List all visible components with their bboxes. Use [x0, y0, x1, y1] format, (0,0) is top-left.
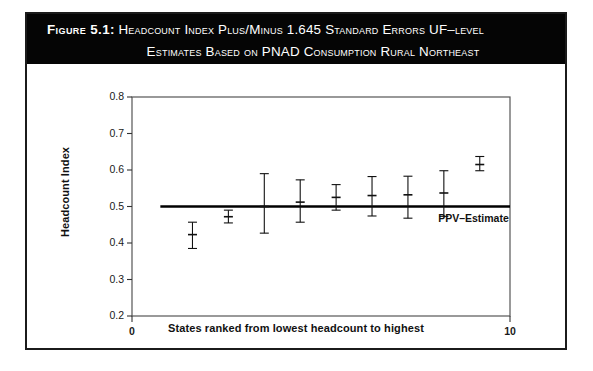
error-bar [368, 177, 377, 216]
error-bar [260, 174, 269, 233]
y-tick-label: 0.5 [86, 200, 124, 212]
figure-number-label: Figure 5.1: [47, 22, 115, 37]
error-bar [224, 210, 233, 223]
figure-title-text-1: Headcount Index Plus/Minus 1.645 Standar… [118, 22, 483, 37]
y-tick-label: 0.3 [86, 273, 124, 285]
y-tick-label: 0.7 [86, 127, 124, 139]
y-tick-label: 0.4 [86, 236, 124, 248]
error-bar [475, 156, 484, 170]
figure-title-text-2: Estimates Based on PNAD Consumption Rura… [147, 44, 480, 59]
error-bars-group [188, 156, 484, 248]
figure-title-line-2: Estimates Based on PNAD Consumption Rura… [41, 41, 551, 63]
y-axis-title: Headcount Index [59, 132, 71, 252]
figure-container: Figure 5.1: Headcount Index Plus/Minus 1… [25, 12, 567, 350]
plot-area: Headcount Index States ranked from lowes… [27, 64, 565, 350]
error-bar [439, 171, 448, 217]
x-axis-title: States ranked from lowest headcount to h… [27, 322, 565, 334]
y-tick-label: 0.8 [86, 90, 124, 102]
x-tick-label: 0 [112, 325, 152, 337]
x-tick-label: 10 [490, 325, 530, 337]
error-bar [188, 222, 197, 248]
ppv-estimate-label: PPV–Estimate [438, 212, 509, 224]
y-tick-label: 0.6 [86, 163, 124, 175]
y-tick-label: 0.2 [86, 309, 124, 321]
error-bar [296, 180, 305, 222]
error-bar [403, 176, 412, 218]
figure-title-line-1: Figure 5.1: Headcount Index Plus/Minus 1… [41, 19, 551, 41]
figure-title-banner: Figure 5.1: Headcount Index Plus/Minus 1… [27, 14, 565, 64]
axis-ticks [127, 97, 510, 322]
